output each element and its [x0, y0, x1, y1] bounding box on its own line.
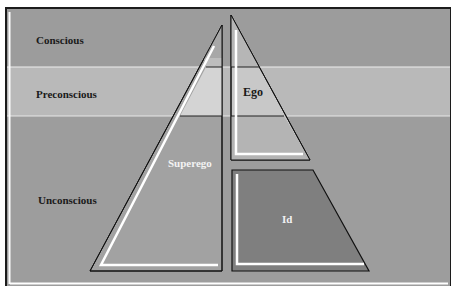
- label-id: Id: [282, 213, 292, 225]
- label-conscious: Conscious: [36, 34, 84, 46]
- label-ego: Ego: [243, 85, 263, 100]
- label-unconscious: Unconscious: [38, 194, 97, 206]
- freud-mind-diagram: Conscious Preconscious Unconscious Super…: [0, 0, 454, 286]
- label-superego: Superego: [168, 157, 212, 169]
- label-preconscious: Preconscious: [36, 88, 97, 100]
